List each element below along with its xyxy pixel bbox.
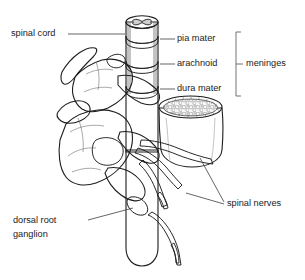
label-pia-mater: pia mater — [177, 33, 215, 43]
spinous-process-upper — [61, 48, 97, 84]
gray-matter-butterfly — [133, 19, 152, 25]
vertebral-foramen — [92, 138, 123, 166]
meninges-bracket — [236, 32, 243, 96]
leader-spinal-nerves-lower — [186, 193, 224, 204]
body-shading — [166, 118, 215, 161]
vertebra-upper — [61, 48, 160, 112]
leader-spinal-nerves-upper — [200, 158, 224, 202]
label-meninges: meninges — [246, 58, 286, 68]
label-dura-mater: dura mater — [177, 83, 221, 93]
label-spinal-nerves: spinal nerves — [227, 198, 282, 208]
vertebra-lower-contours — [68, 118, 104, 172]
label-spinal-cord: spinal cord — [11, 28, 55, 38]
vertebral-arch-lower — [59, 110, 132, 185]
spinal-anatomy-illustration: spinal cord pia mater arachnoid dura mat… — [0, 0, 305, 280]
inferior-articular-process — [105, 167, 145, 200]
articular-facet-upper — [107, 54, 125, 68]
label-arachnoid: arachnoid — [177, 58, 217, 68]
label-dorsal-root-ganglion-line1: dorsal root — [13, 215, 57, 225]
vertebra-lower — [57, 101, 159, 201]
spinal-nerve-lower — [148, 212, 181, 265]
vertebral-arch-upper — [72, 59, 132, 111]
spinal-anatomy-figure: spinal cord pia mater arachnoid dura mat… — [0, 0, 305, 280]
vertebral-body — [159, 96, 223, 167]
label-dorsal-root-ganglion-line2: ganglion — [13, 229, 48, 239]
